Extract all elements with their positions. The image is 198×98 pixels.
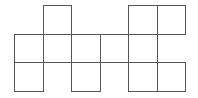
grid-square [71,34,101,63]
grid-square [43,34,72,63]
grid-square [128,34,158,63]
grid-square [14,62,44,92]
grid-square [43,5,72,35]
square-grid-diagram [0,0,198,98]
grid-square [100,34,129,63]
grid-square [71,62,101,92]
grid-square [128,5,158,35]
grid-square [128,62,158,92]
grid-square [157,5,186,35]
grid-square [14,34,44,63]
grid-square [157,62,186,92]
